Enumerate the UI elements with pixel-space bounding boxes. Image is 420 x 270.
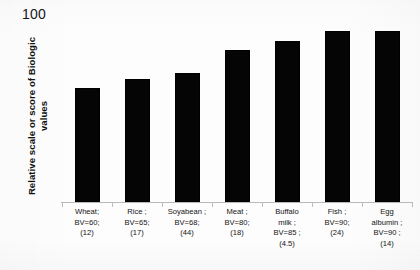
bar [375, 31, 400, 202]
x-axis-category-label-line: BV=60; [63, 218, 111, 229]
x-axis-category-label-line: BV=90 ; [363, 228, 411, 239]
y-axis-max-tick-label: 100 [22, 6, 46, 22]
bar-series [62, 12, 412, 202]
bar-slot [362, 12, 412, 202]
x-axis-category-label-line: (24) [313, 228, 361, 239]
x-axis-category-label: Buffalomilk ;BV=85 ;(4.5) [262, 207, 312, 249]
x-axis-category-label-line: BV=85 ; [263, 228, 311, 239]
bar [225, 50, 250, 202]
bar [325, 31, 350, 202]
bar-slot [262, 12, 312, 202]
x-axis-category-label-line: (44) [163, 228, 211, 239]
bar-slot [62, 12, 112, 202]
x-axis-category-label-line: BV=68; [163, 218, 211, 229]
x-axis-category-label: Eggalbumin ;BV=90 ;(14) [362, 207, 412, 249]
x-axis-category-label: Wheat;BV=60;(12) [62, 207, 112, 249]
x-axis-category-label-line: Meat ; [213, 207, 261, 218]
bar [125, 79, 150, 203]
x-axis-category-labels: Wheat;BV=60;(12)Rice ;BV=65;(17)Soyabean… [62, 207, 412, 249]
x-axis-category-label: Fish ;BV=90;(24) [312, 207, 362, 249]
x-axis-category-label-line: milk ; [263, 218, 311, 229]
bar [75, 88, 100, 202]
x-axis-category-label-line: (14) [363, 239, 411, 250]
x-axis-category-label-line: Egg [363, 207, 411, 218]
x-axis-category-label: Rice ;BV=65;(17) [112, 207, 162, 249]
x-axis-category-label-line: BV=80; [213, 218, 261, 229]
bar [175, 73, 200, 202]
bar-slot [112, 12, 162, 202]
plot-area [62, 12, 412, 202]
y-axis-title: Relative scale or score of Biologic valu… [26, 21, 50, 211]
x-axis-category-label-line: Wheat; [63, 207, 111, 218]
x-axis-category-label-line: (17) [113, 228, 161, 239]
x-axis-category-label-line: Fish ; [313, 207, 361, 218]
x-axis-category-label-line: Rice ; [113, 207, 161, 218]
x-axis-category-label-line: Soyabean ; [163, 207, 211, 218]
bar [275, 41, 300, 203]
x-axis-category-label-line: BV=90; [313, 218, 361, 229]
x-axis-tick [412, 202, 413, 207]
x-axis-category-label-line: BV=65; [113, 218, 161, 229]
x-axis-category-label-line: (4.5) [263, 239, 311, 250]
x-axis-category-label-line: albumin ; [363, 218, 411, 229]
bar-slot [212, 12, 262, 202]
x-axis-category-label-line: Buffalo [263, 207, 311, 218]
x-axis-category-label-line: (12) [63, 228, 111, 239]
bar-chart: 100 Relative scale or score of Biologic … [0, 0, 420, 270]
x-axis-category-label-line: (18) [213, 228, 261, 239]
bar-slot [312, 12, 362, 202]
x-axis-category-label: Meat ;BV=80;(18) [212, 207, 262, 249]
x-axis-category-label: Soyabean ;BV=68;(44) [162, 207, 212, 249]
bar-slot [162, 12, 212, 202]
